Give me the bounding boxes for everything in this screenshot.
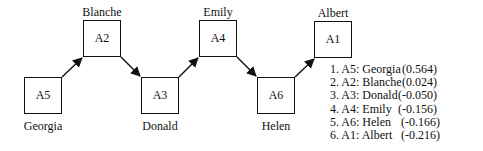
node-a4: A4: [199, 20, 237, 57]
node-a5: A5: [24, 77, 62, 114]
arrow-a2-to-a3: [121, 57, 140, 76]
arrow-a4-to-a6: [237, 57, 256, 76]
arrow-a6-to-a1: [295, 59, 314, 77]
ranking-value: (-0.156): [377, 103, 437, 116]
node-name-albert: Albert: [318, 6, 349, 21]
node-id: A2: [95, 31, 110, 46]
node-name-emily: Emily: [203, 5, 232, 20]
arrow-a3-to-a4: [179, 58, 198, 77]
node-id: A5: [36, 88, 51, 103]
ranking-value: (-0.050): [377, 89, 437, 102]
node-name-helen: Helen: [262, 119, 291, 134]
node-id: A6: [269, 88, 284, 103]
node-name-blanche: Blanche: [82, 5, 121, 20]
node-a3: A3: [141, 77, 179, 114]
node-id: A4: [211, 31, 226, 46]
node-id: A3: [153, 88, 168, 103]
ranking-chain-diagram: A5 Georgia A2 Blanche A3 Donald A4 Emily…: [0, 0, 483, 151]
arrow-a5-to-a2: [62, 58, 82, 77]
node-a6: A6: [257, 77, 295, 114]
ranking-value: (-0.166): [380, 116, 440, 129]
node-id: A1: [326, 32, 341, 47]
node-name-georgia: Georgia: [24, 119, 62, 134]
ranking-value: (-0.216): [380, 129, 440, 142]
node-a2: A2: [83, 20, 121, 57]
node-name-donald: Donald: [142, 119, 177, 134]
node-a1: A1: [314, 21, 352, 58]
